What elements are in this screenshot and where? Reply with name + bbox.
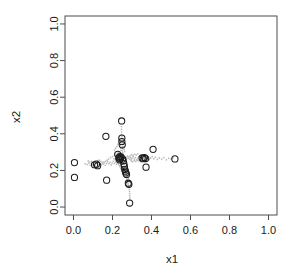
noise-point <box>112 160 114 162</box>
noise-point <box>161 158 163 160</box>
noise-point <box>86 164 88 166</box>
scatter-plot-figure: 0.00.20.40.60.81.0 0.00.20.40.60.81.0 x1… <box>0 0 292 275</box>
noise-point <box>107 161 109 163</box>
x-tick-label: 0.0 <box>66 224 81 236</box>
noise-point <box>129 195 131 197</box>
noise-point <box>100 160 102 162</box>
noise-point <box>84 163 86 165</box>
noise-point <box>105 160 107 162</box>
y-tick-label: 0.6 <box>48 90 60 105</box>
data-point <box>143 164 149 170</box>
noise-point <box>158 157 160 159</box>
noise-point <box>132 161 134 163</box>
noise-point <box>131 154 133 156</box>
data-point <box>103 133 109 139</box>
noise-point <box>135 154 137 156</box>
x-tick-label: 0.4 <box>144 224 159 236</box>
noise-point <box>115 148 117 150</box>
noise-point <box>120 149 122 151</box>
noise-point <box>106 159 108 161</box>
y-tick-label: 0.0 <box>48 199 60 214</box>
noise-point <box>129 158 131 160</box>
data-point <box>104 177 110 183</box>
noise-point <box>132 156 134 158</box>
noise-point <box>89 164 91 166</box>
noise-point <box>117 144 119 146</box>
noise-point <box>129 193 131 195</box>
noise-point <box>132 155 134 157</box>
noise-point <box>134 153 136 155</box>
noise-point <box>127 183 129 185</box>
noise-point <box>113 158 115 160</box>
noise-point <box>135 160 137 162</box>
data-point-layer <box>71 118 178 206</box>
x-tick-label: 0.8 <box>222 224 237 236</box>
data-point <box>119 118 125 124</box>
plot-frame <box>65 16 277 215</box>
noise-point <box>131 157 133 159</box>
data-point <box>71 159 77 165</box>
noise-point <box>124 151 126 153</box>
noise-point <box>112 156 114 158</box>
x-axis-title: x1 <box>166 253 178 265</box>
noise-point <box>153 158 155 160</box>
noise-point <box>116 146 118 148</box>
noise-point <box>163 157 165 159</box>
noise-point <box>121 126 123 128</box>
noise-point <box>121 129 123 131</box>
data-point <box>71 174 77 180</box>
noise-point <box>114 163 116 165</box>
noise-point <box>110 157 112 159</box>
noise-point <box>119 166 121 168</box>
noise-point <box>114 149 116 151</box>
noise-point <box>129 197 131 199</box>
noise-point <box>123 148 125 150</box>
noise-point <box>126 155 128 157</box>
noise-point <box>110 164 112 166</box>
noise-point <box>128 178 130 180</box>
noise-point <box>137 159 139 161</box>
noise-point <box>118 164 120 166</box>
noise-point <box>111 162 113 164</box>
data-point <box>172 156 178 162</box>
noise-point <box>108 163 110 165</box>
x-tick-label: 1.0 <box>261 224 276 236</box>
noise-point <box>87 160 89 162</box>
noise-point <box>165 159 167 161</box>
noise-point <box>121 145 123 147</box>
noise-point <box>135 157 137 159</box>
x-axis-ticks: 0.00.20.40.60.81.0 <box>66 215 276 236</box>
noise-point <box>121 131 123 133</box>
noise-point <box>116 163 118 165</box>
noise-point <box>133 160 135 162</box>
y-tick-label: 0.2 <box>48 163 60 178</box>
noise-point <box>130 157 132 159</box>
chart-canvas: 0.00.20.40.60.81.0 0.00.20.40.60.81.0 x1… <box>0 0 292 275</box>
noise-point <box>89 161 91 163</box>
x-tick-label: 0.6 <box>183 224 198 236</box>
noise-point <box>151 156 153 158</box>
y-axis-ticks: 0.00.20.40.60.81.0 <box>48 16 65 214</box>
noise-point <box>103 161 105 163</box>
noise-point <box>155 156 157 158</box>
noise-point <box>115 153 117 155</box>
noise-point <box>106 163 108 165</box>
noise-point <box>121 136 123 138</box>
noise-point <box>130 160 132 162</box>
noise-point <box>133 158 135 160</box>
y-tick-label: 0.4 <box>48 126 60 141</box>
y-tick-label: 0.8 <box>48 53 60 68</box>
noise-point <box>168 157 170 159</box>
y-tick-label: 1.0 <box>48 16 60 31</box>
noise-point <box>157 159 159 161</box>
noise-point <box>127 157 129 159</box>
noise-point <box>150 157 152 159</box>
noise-point <box>122 152 124 154</box>
noise-point <box>128 188 130 190</box>
noise-point <box>129 155 131 157</box>
noise-point <box>91 160 93 162</box>
noise-point <box>129 190 131 192</box>
noise-point <box>137 153 139 155</box>
y-axis-title: x2 <box>10 111 22 123</box>
noise-point <box>98 159 100 161</box>
